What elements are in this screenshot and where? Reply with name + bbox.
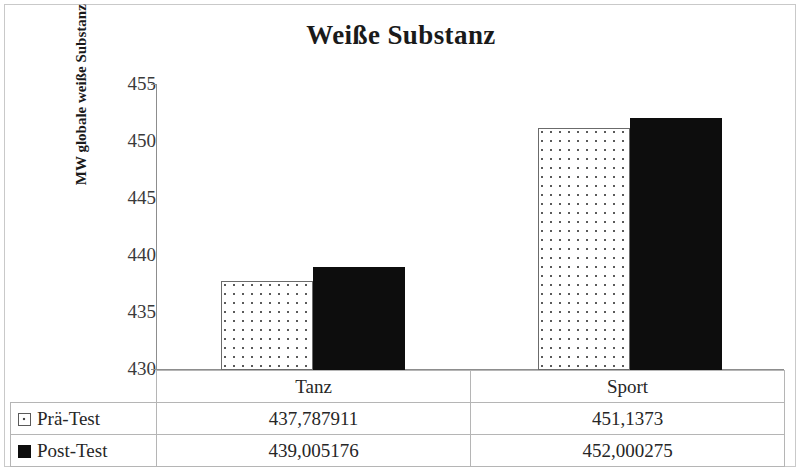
y-tick-label: 450: [110, 130, 156, 152]
table-corner-cell: [11, 371, 157, 403]
legend-label-prae-test: Prä-Test: [37, 408, 100, 429]
legend-swatch-dotted-icon: [18, 413, 31, 426]
y-axis-tick-mark: [151, 84, 156, 85]
value-prae-sport: 451,1373: [471, 403, 785, 435]
bar-tanz-post-test: [313, 267, 405, 370]
data-table: Tanz Sport Prä-Test 437,787911 451,1373 …: [10, 370, 785, 467]
y-axis-ticks: 455 450 445 440 435 430: [0, 84, 156, 370]
table-row-categories: Tanz Sport: [11, 371, 785, 403]
table-row: Prä-Test 437,787911 451,1373: [11, 403, 785, 435]
bar-sport-post-test: [630, 118, 722, 370]
value-prae-tanz: 437,787911: [157, 403, 471, 435]
value-post-tanz: 439,005176: [157, 435, 471, 467]
y-axis-line: [156, 84, 157, 370]
legend-swatch-solid-icon: [18, 445, 31, 458]
x-axis-label-tanz: Tanz: [157, 371, 471, 403]
bar-tanz-prae-test: [221, 281, 313, 370]
chart-figure: Weiße Substanz MW globale weiße Substanz…: [0, 0, 802, 473]
legend-item-prae-test: Prä-Test: [11, 403, 157, 435]
plot-area: [156, 84, 784, 370]
table-row: Post-Test 439,005176 452,000275: [11, 435, 785, 467]
y-tick-label: 445: [110, 187, 156, 209]
legend-item-post-test: Post-Test: [11, 435, 157, 467]
x-axis-label-sport: Sport: [471, 371, 785, 403]
value-post-sport: 452,000275: [471, 435, 785, 467]
y-tick-label: 440: [110, 244, 156, 266]
bar-sport-prae-test: [538, 128, 630, 370]
y-tick-label: 435: [110, 301, 156, 323]
y-tick-label: 455: [110, 73, 156, 95]
legend-label-post-test: Post-Test: [37, 440, 107, 461]
chart-title: Weiße Substanz: [0, 20, 802, 51]
